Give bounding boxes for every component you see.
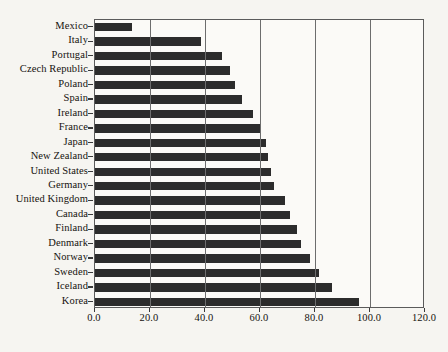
bar-row <box>95 280 423 294</box>
y-axis-label-czech-republic: Czech Republic <box>0 62 88 76</box>
y-axis-tick <box>88 26 93 27</box>
bar-czech-republic[interactable] <box>95 66 230 74</box>
bar-mexico[interactable] <box>95 23 132 31</box>
y-axis-tick <box>88 98 93 99</box>
bar-denmark[interactable] <box>95 240 301 248</box>
bar-row <box>95 92 423 106</box>
bar-finland[interactable] <box>95 225 297 233</box>
bar-row <box>95 193 423 207</box>
gridline-x-40.0 <box>205 20 206 307</box>
y-axis-label-sweden: Sweden <box>0 265 88 279</box>
x-axis-tick <box>314 308 315 312</box>
gridline-x-20.0 <box>150 20 151 307</box>
y-axis-tick <box>88 41 93 42</box>
bar-ireland[interactable] <box>95 110 253 118</box>
bar-sweden[interactable] <box>95 269 319 277</box>
bar-row <box>95 295 423 309</box>
bar-italy[interactable] <box>95 37 201 45</box>
bar-row <box>95 20 423 34</box>
y-axis-tick <box>88 214 93 215</box>
bar-row <box>95 121 423 135</box>
y-axis-label-iceland: Iceland <box>0 279 88 293</box>
bar-row <box>95 237 423 251</box>
plot-area <box>94 19 424 308</box>
bar-spain[interactable] <box>95 95 242 103</box>
bar-new-zealand[interactable] <box>95 153 268 161</box>
x-axis-tick-label-100.0: 100.0 <box>357 312 381 323</box>
x-axis-tick <box>94 308 95 312</box>
bar-united-states[interactable] <box>95 168 271 176</box>
x-axis-tick <box>204 308 205 312</box>
bar-row <box>95 107 423 121</box>
gridline-x-100.0 <box>370 20 371 307</box>
bar-portugal[interactable] <box>95 52 222 60</box>
bar-row <box>95 34 423 48</box>
y-axis-label-canada: Canada <box>0 207 88 221</box>
y-axis-tick <box>88 84 93 85</box>
y-axis-tick <box>88 286 93 287</box>
y-axis-tick <box>88 301 93 302</box>
y-axis-tick <box>88 272 93 273</box>
y-axis-tick <box>88 142 93 143</box>
bar-united-kingdom[interactable] <box>95 196 285 204</box>
y-axis-label-norway: Norway <box>0 250 88 264</box>
y-axis-tick <box>88 257 93 258</box>
y-axis-label-new-zealand: New Zealand <box>0 149 88 163</box>
x-axis-tick <box>424 308 425 312</box>
bar-row <box>95 136 423 150</box>
y-axis-category-labels: MexicoItalyPortugalCzech RepublicPolandS… <box>0 19 88 308</box>
x-axis-tick-label-40.0: 40.0 <box>195 312 214 323</box>
x-axis-tick <box>149 308 150 312</box>
y-axis-label-spain: Spain <box>0 91 88 105</box>
y-axis-label-ireland: Ireland <box>0 106 88 120</box>
x-axis-tick-label-80.0: 80.0 <box>305 312 324 323</box>
bar-germany[interactable] <box>95 182 274 190</box>
bar-poland[interactable] <box>95 81 235 89</box>
x-axis-tick-label-60.0: 60.0 <box>250 312 269 323</box>
y-axis-tick <box>88 156 93 157</box>
y-axis-tick <box>88 200 93 201</box>
y-axis-label-korea: Korea <box>0 294 88 308</box>
bar-row <box>95 251 423 265</box>
bar-iceland[interactable] <box>95 283 332 291</box>
y-axis-tick <box>88 185 93 186</box>
y-axis-label-germany: Germany <box>0 178 88 192</box>
y-axis-tick <box>88 243 93 244</box>
bars-layer <box>95 20 423 307</box>
x-axis-tick-label-120.0: 120.0 <box>412 312 436 323</box>
x-axis-tick <box>369 308 370 312</box>
bar-row <box>95 208 423 222</box>
y-axis-label-france: France <box>0 120 88 134</box>
x-axis-tick-label-20.0: 20.0 <box>140 312 159 323</box>
y-axis-label-japan: Japan <box>0 135 88 149</box>
y-axis-label-italy: Italy <box>0 33 88 47</box>
y-axis-label-united-states: United States <box>0 164 88 178</box>
x-axis-tick-labels: 0.020.040.060.080.0100.0120.0 <box>0 312 448 334</box>
bar-france[interactable] <box>95 124 260 132</box>
y-axis-label-portugal: Portugal <box>0 48 88 62</box>
y-axis-tick <box>88 229 93 230</box>
y-axis-tick <box>88 113 93 114</box>
y-axis-tick <box>88 70 93 71</box>
bar-row <box>95 266 423 280</box>
bar-row <box>95 63 423 77</box>
y-axis-label-mexico: Mexico <box>0 19 88 33</box>
bar-row <box>95 49 423 63</box>
bar-chart: MexicoItalyPortugalCzech RepublicPolandS… <box>0 0 448 352</box>
y-axis-label-united-kingdom: United Kingdom <box>0 192 88 206</box>
y-axis-label-finland: Finland <box>0 221 88 235</box>
x-axis-tick <box>259 308 260 312</box>
gridline-x-60.0 <box>260 20 261 307</box>
y-axis-tick <box>88 127 93 128</box>
bar-row <box>95 78 423 92</box>
bar-row <box>95 150 423 164</box>
y-axis-tick <box>88 171 93 172</box>
bar-japan[interactable] <box>95 139 266 147</box>
bar-row <box>95 222 423 236</box>
bar-norway[interactable] <box>95 254 310 262</box>
x-axis-tick-label-0.0: 0.0 <box>87 312 100 323</box>
bar-row <box>95 179 423 193</box>
gridline-x-80.0 <box>315 20 316 307</box>
y-axis-label-poland: Poland <box>0 77 88 91</box>
bar-korea[interactable] <box>95 298 359 306</box>
